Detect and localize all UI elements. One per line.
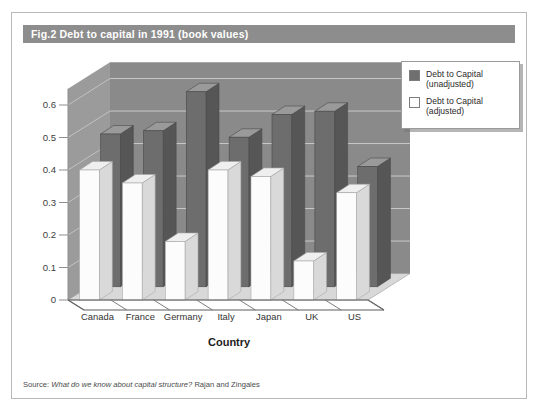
figure-screenshot: Fig.2 Debt to capital in 1991 (book valu… (0, 0, 541, 415)
bar-us-s1 (337, 184, 370, 300)
chart-legend: Debt to Capital (unadjusted) Debt to Cap… (401, 61, 520, 129)
x-tick-label-japan: Japan (256, 311, 282, 322)
y-tick-label: 0.3 (43, 197, 56, 208)
x-tick-label-canada: Canada (81, 311, 115, 322)
figure-title-banner: Fig.2 Debt to capital in 1991 (book valu… (23, 25, 515, 43)
x-tick-label-us: US (348, 311, 361, 322)
bar-uk-s1 (294, 253, 327, 301)
legend-swatch-adjusted-icon (409, 97, 420, 108)
source-authors: Rajan and Zingales (192, 380, 260, 389)
x-tick-label-italy: Italy (217, 311, 235, 322)
x-tick-label-germany: Germany (164, 311, 203, 322)
y-tick-label: 0 (51, 294, 56, 305)
y-tick-label: 0.1 (43, 262, 56, 273)
bar-italy-s1 (208, 162, 241, 301)
legend-item-adjusted: Debt to Capital (adjusted) (409, 96, 513, 116)
source-title: What do we know about capital structure? (51, 380, 192, 389)
bar-canada-s1 (80, 162, 113, 301)
figure-title: Debt to capital in 1991 (book values) (60, 28, 249, 40)
source-note: Source: What do we know about capital st… (23, 380, 260, 389)
y-tick-label: 0.2 (43, 229, 56, 240)
y-tick-label: 0.4 (43, 164, 57, 175)
legend-label-unadjusted: Debt to Capital (unadjusted) (426, 69, 483, 89)
y-axis: 00.10.20.30.40.50.6 (43, 89, 68, 306)
figure-number: Fig.2 (31, 28, 57, 40)
x-axis: CanadaFranceGermanyItalyJapanUKUS (68, 300, 384, 322)
legend-label-adjusted: Debt to Capital (adjusted) (426, 96, 483, 116)
x-axis-title: Country (208, 336, 251, 348)
bar-japan-s1 (251, 168, 284, 300)
x-tick-label-france: France (126, 311, 155, 322)
bar-germany-s1 (165, 233, 198, 300)
bar-france-s1 (122, 175, 155, 301)
legend-swatch-unadjusted-icon (409, 70, 420, 81)
legend-item-unadjusted: Debt to Capital (unadjusted) (409, 69, 513, 89)
x-tick-label-uk: UK (305, 311, 319, 322)
source-lead: Source: (23, 380, 51, 389)
y-tick-label: 0.5 (43, 132, 56, 143)
y-tick-label: 0.6 (43, 99, 56, 110)
